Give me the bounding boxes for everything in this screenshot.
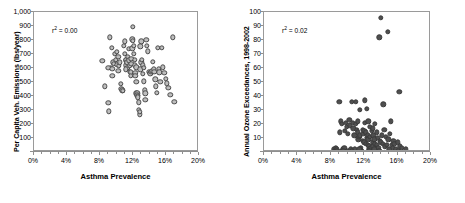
scatter-point: [397, 89, 402, 94]
x-tick-label: 0%: [28, 157, 38, 164]
scatter-point: [154, 90, 159, 95]
y-tick-mark: [30, 67, 33, 68]
y-axis-tick-labels-right: 102030405060708090100: [235, 11, 261, 151]
x-tick-mark: [165, 152, 166, 155]
x-tick-label: 4%: [61, 157, 71, 164]
x-minor-tick-mark: [190, 152, 191, 154]
x-tick-label: 12%: [356, 157, 370, 164]
scatter-point: [115, 68, 120, 73]
scatter-point: [349, 148, 354, 150]
scatter-point: [110, 66, 115, 71]
x-tick-mark: [397, 152, 398, 155]
scatter-point: [107, 34, 112, 39]
scatter-point: [353, 99, 358, 104]
y-tick-mark: [260, 53, 263, 54]
scatter-point: [100, 58, 105, 63]
scatter-point: [143, 37, 148, 42]
scatter-point: [158, 79, 163, 84]
x-minor-tick-mark: [388, 152, 389, 154]
x-tick-mark: [132, 152, 133, 155]
scatter-point: [366, 118, 371, 123]
x-tick-mark: [99, 152, 100, 155]
x-minor-tick-mark: [347, 152, 348, 154]
x-minor-tick-mark: [124, 152, 125, 154]
y-tick-mark: [260, 25, 263, 26]
r-squared-annotation-left: r2 = 0.00: [52, 25, 77, 34]
x-tick-mark: [263, 152, 264, 155]
scatter-point: [134, 79, 139, 84]
x-tick-label: 4%: [291, 157, 301, 164]
x-minor-tick-mark: [74, 152, 75, 154]
scatter-point: [345, 131, 350, 136]
scatter-point: [136, 100, 141, 105]
x-tick-mark: [66, 152, 67, 155]
x-minor-tick-mark: [313, 152, 314, 154]
chart-panel-left: Per Capita Veh. Emissions (lbs/year) 100…: [0, 0, 232, 203]
scatter-point: [372, 121, 377, 126]
two-panel-scatter-figure: Per Capita Veh. Emissions (lbs/year) 100…: [0, 0, 465, 203]
scatter-point: [162, 70, 167, 75]
x-tick-label: 12%: [125, 157, 139, 164]
x-minor-tick-mark: [280, 152, 281, 154]
scatter-point: [167, 92, 172, 97]
y-tick-mark: [30, 25, 33, 26]
scatter-point: [356, 146, 361, 150]
x-minor-tick-mark: [321, 152, 322, 154]
y-tick-mark: [260, 67, 263, 68]
x-minor-tick-mark: [140, 152, 141, 154]
scatter-point: [115, 54, 120, 59]
x-tick-label: 20%: [423, 157, 437, 164]
scatter-point: [388, 118, 393, 123]
y-tick-mark: [260, 123, 263, 124]
y-tick-mark: [260, 39, 263, 40]
x-minor-tick-mark: [107, 152, 108, 154]
x-axis-title-left: Asthma Prevalence: [0, 172, 232, 181]
scatter-point: [122, 39, 127, 44]
x-minor-tick-mark: [50, 152, 51, 154]
x-minor-tick-mark: [338, 152, 339, 154]
x-minor-tick-mark: [182, 152, 183, 154]
scatter-point: [132, 57, 137, 62]
x-minor-tick-mark: [83, 152, 84, 154]
y-tick-mark: [30, 53, 33, 54]
scatter-point: [117, 60, 122, 65]
x-minor-tick-mark: [41, 152, 42, 154]
x-minor-tick-mark: [271, 152, 272, 154]
scatter-point: [377, 34, 382, 39]
scatter-point: [150, 59, 155, 64]
y-tick-mark: [30, 109, 33, 110]
scatter-point: [385, 29, 390, 34]
scatter-point: [143, 97, 148, 102]
scatter-point: [160, 65, 165, 70]
scatter-point: [159, 45, 164, 50]
scatter-point: [166, 85, 171, 90]
x-minor-tick-mark: [422, 152, 423, 154]
x-minor-tick-mark: [413, 152, 414, 154]
scatter-point: [387, 131, 392, 136]
x-tick-label: 8%: [94, 157, 104, 164]
y-tick-mark: [30, 39, 33, 40]
scatter-point: [364, 106, 369, 111]
scatter-point: [341, 148, 346, 150]
scatter-point: [141, 79, 146, 84]
x-minor-tick-mark: [149, 152, 150, 154]
x-tick-mark: [33, 152, 34, 155]
y-tick-mark: [260, 81, 263, 82]
scatter-point: [139, 57, 144, 62]
scatter-point: [143, 90, 148, 95]
scatter-point: [106, 100, 111, 105]
y-tick-mark: [30, 81, 33, 82]
x-minor-tick-mark: [173, 152, 174, 154]
x-tick-label: 0%: [258, 157, 268, 164]
scatter-point: [378, 15, 383, 20]
y-tick-mark: [30, 123, 33, 124]
scatter-point: [145, 48, 150, 53]
x-minor-tick-mark: [380, 152, 381, 154]
x-tick-mark: [296, 152, 297, 155]
x-tick-mark: [330, 152, 331, 155]
scatter-point: [138, 44, 143, 49]
x-minor-tick-mark: [305, 152, 306, 154]
scatter-point: [131, 51, 136, 56]
x-minor-tick-mark: [355, 152, 356, 154]
scatter-point: [120, 88, 125, 93]
